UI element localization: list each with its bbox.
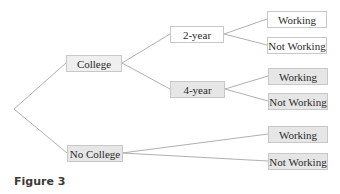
decision-tree-diagram: College No College 2-year 4-year Working…	[0, 0, 340, 194]
leaf-no-college-not-working: Not Working	[268, 153, 328, 170]
node-no-college: No College	[67, 145, 123, 162]
node-2-year: 2-year	[170, 26, 224, 43]
node-4-year: 4-year	[170, 81, 225, 98]
leaf-4yr-working: Working	[268, 68, 328, 85]
figure-caption: Figure 3	[14, 175, 65, 188]
leaf-no-college-working: Working	[268, 126, 328, 143]
leaf-4yr-not-working: Not Working	[268, 93, 328, 110]
leaf-2yr-working: Working	[267, 11, 327, 28]
leaf-2yr-not-working: Not Working	[267, 37, 327, 54]
node-college: College	[66, 55, 122, 72]
